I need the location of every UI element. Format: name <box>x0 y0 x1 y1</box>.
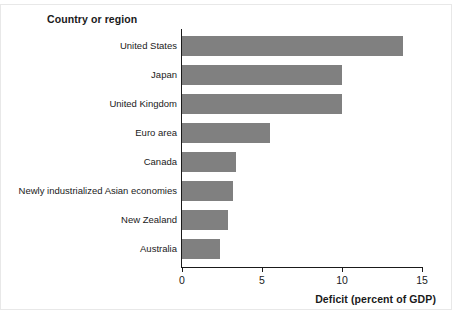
bar <box>182 123 270 143</box>
x-axis-tick-label: 10 <box>336 274 348 286</box>
bar <box>182 239 220 259</box>
bar-category-label: Newly industrialized Asian economies <box>19 181 177 201</box>
x-axis-tick <box>262 267 263 272</box>
bar-row: Japan <box>182 65 342 85</box>
bar-category-label: United States <box>120 36 177 56</box>
x-axis-tick-label: 0 <box>179 274 185 286</box>
bar-category-label: Euro area <box>135 123 177 143</box>
bar-row: Euro area <box>182 123 270 143</box>
bar-row: Canada <box>182 152 236 172</box>
bar-category-label: Japan <box>151 65 177 85</box>
bar-chart-figure: Country or region 051015 United StatesJa… <box>0 0 452 316</box>
bar <box>182 36 403 56</box>
chart-column-header: Country or region <box>47 13 137 25</box>
x-axis-line <box>181 267 423 268</box>
bar <box>182 65 342 85</box>
bar <box>182 210 228 230</box>
bar-category-label: Australia <box>140 239 177 259</box>
bar-category-label: United Kingdom <box>109 94 177 114</box>
x-axis-tick <box>182 267 183 272</box>
bar <box>182 152 236 172</box>
x-axis-tick-label: 15 <box>416 274 428 286</box>
bar-category-label: Canada <box>144 152 177 172</box>
x-axis-tick-label: 5 <box>259 274 265 286</box>
bar-category-label: New Zealand <box>121 210 177 230</box>
bar <box>182 94 342 114</box>
bar-row: Australia <box>182 239 220 259</box>
bar-row: United States <box>182 36 403 56</box>
bar <box>182 181 233 201</box>
bar-row: Newly industrialized Asian economies <box>182 181 233 201</box>
bar-row: United Kingdom <box>182 94 342 114</box>
x-axis-tick <box>342 267 343 272</box>
bar-row: New Zealand <box>182 210 228 230</box>
x-axis-tick <box>422 267 423 272</box>
x-axis-title: Deficit (percent of GDP) <box>315 293 436 305</box>
